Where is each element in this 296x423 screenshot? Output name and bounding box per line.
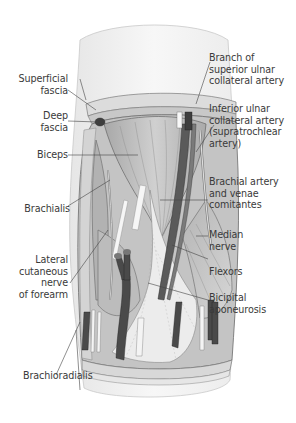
label-lateral-cutaneous-nerve: Lateral cutaneous nerve of forearm [19, 254, 68, 300]
label-deep-fascia: Deep fascia [41, 110, 68, 133]
label-flexors: Flexors [209, 266, 242, 278]
label-median-nerve: Median nerve [209, 229, 243, 252]
label-superficial-fascia: Superficial fascia [18, 73, 68, 96]
label-bicipital-aponeurosis: Bicipital aponeurosis [209, 292, 266, 315]
label-brachialis: Brachialis [24, 203, 70, 215]
label-branch-superior-ulnar: Branch of superior ulnar collateral arte… [209, 52, 284, 87]
label-inferior-ulnar: Inferior ulnar collateral artery (suprat… [209, 103, 284, 149]
label-biceps: Biceps [37, 149, 68, 161]
label-brachioradialis: Brachioradialis [23, 370, 93, 382]
anatomy-figure: Superficial fascia Deep fascia Biceps Br… [0, 0, 296, 423]
label-brachial-artery: Brachial artery and venae comitantes [209, 176, 279, 211]
